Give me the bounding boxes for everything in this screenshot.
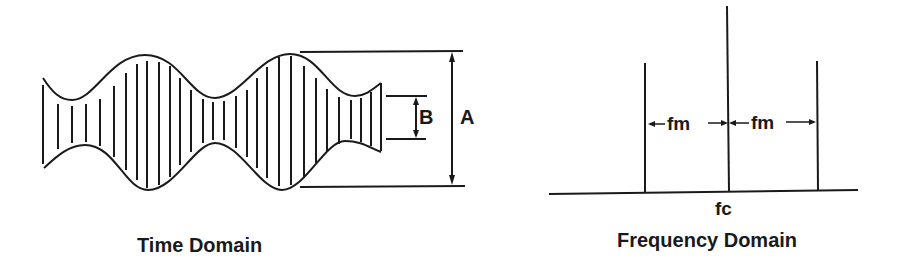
carrier-hatching [43, 56, 381, 188]
fm-label-left: fm [667, 113, 690, 134]
frequency-domain-caption: Frequency Domain [617, 229, 797, 251]
carrier-line [727, 6, 729, 192]
label-b: B [419, 106, 433, 128]
fm-label-right: fm [751, 112, 774, 133]
time-domain-caption: Time Domain [137, 234, 262, 256]
time-domain-waveform [43, 54, 381, 190]
upper-envelope [43, 54, 381, 100]
frequency-axis [549, 190, 858, 194]
carrier-frequency-label: fc [715, 198, 732, 219]
label-a: A [460, 106, 474, 128]
lower-envelope [44, 141, 381, 190]
frequency-domain-spectrum [549, 6, 858, 194]
upper-sideband-line [817, 61, 818, 191]
am-signal-diagram: A B Time Domain fm fm fc Frequency Domai… [0, 0, 903, 274]
dimension-a [300, 51, 465, 187]
